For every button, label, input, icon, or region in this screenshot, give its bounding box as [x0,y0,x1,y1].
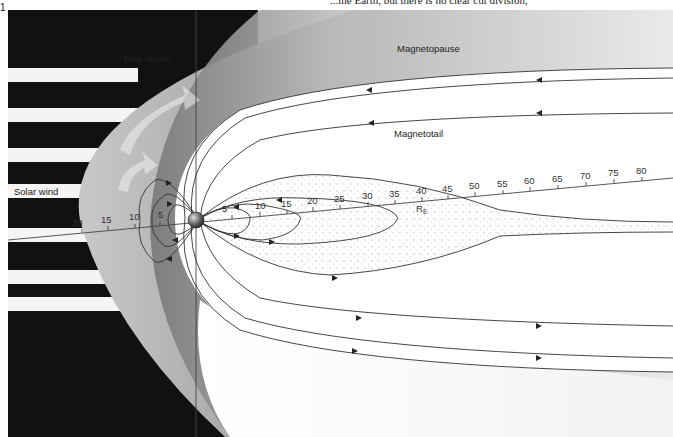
svg-text:70: 70 [580,170,591,181]
svg-text:20: 20 [307,195,318,206]
bow-shock-label: Bow shock [124,53,170,64]
earth [188,212,204,228]
svg-text:10: 10 [255,200,266,211]
svg-text:15: 15 [281,198,292,209]
svg-text:25: 25 [334,193,345,204]
svg-text:30: 30 [362,190,373,201]
tick-label: 10 [129,211,140,222]
svg-text:55: 55 [497,178,508,189]
svg-text:35: 35 [389,188,400,199]
tick-label: 5 [158,209,163,220]
magnetotail-label: Magnetotail [394,128,443,139]
svg-text:50: 50 [469,180,480,191]
tick-label: 20 [72,217,83,228]
svg-text:40: 40 [416,185,427,196]
svg-text:80: 80 [636,165,647,176]
solar-wind-label: Solar wind [14,186,58,197]
svg-text:75: 75 [608,167,619,178]
tick-label: 15 [101,214,112,225]
svg-text:5: 5 [222,203,227,214]
magnetopause-label: Magnetopause [397,43,460,54]
magnetosphere-diagram: 20 15 10 5 5 10 15 20 25 30 35 40 45 50 … [0,0,673,437]
svg-text:60: 60 [524,175,535,186]
svg-text:65: 65 [552,173,563,184]
svg-text:45: 45 [442,183,453,194]
